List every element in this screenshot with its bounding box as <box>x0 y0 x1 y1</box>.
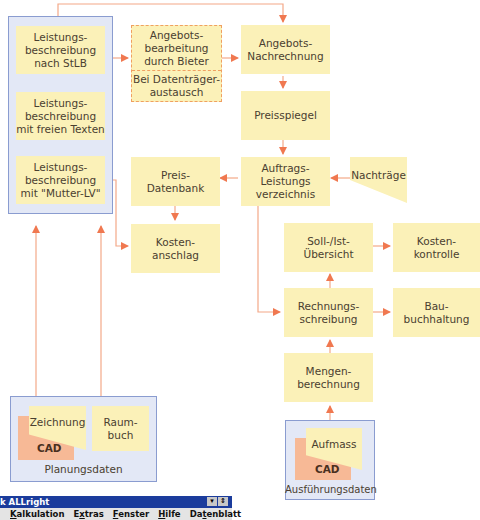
minimize-button[interactable]: ▾ <box>207 497 217 506</box>
kostenkontrolle-box[interactable]: Kosten- kontrolle <box>393 223 480 272</box>
app-window: k ALLright ▾ ⇕ Kalkulation Extras Fenste… <box>0 496 232 520</box>
window-titlebar: k ALLright ▾ ⇕ <box>0 496 232 508</box>
datentraeger-label: Bei Datenträger- austausch <box>132 71 221 101</box>
ausfuehrung-cad-label: CAD <box>315 463 340 475</box>
menu-datenblatt[interactable]: Datenblatt <box>190 508 242 520</box>
kostenanschlag-box[interactable]: Kosten- anschlag <box>131 224 220 273</box>
menu-kalkulation[interactable]: Kalkulation <box>10 508 64 520</box>
baubuchhaltung-box[interactable]: Bau- buchhaltung <box>393 288 480 337</box>
menu-hilfe[interactable]: Hilfe <box>158 508 180 520</box>
angebotsbearbeitung-box[interactable]: Angebots- bearbeitung durch Bieter Bei D… <box>131 25 222 102</box>
restore-button[interactable]: ⇕ <box>218 497 228 506</box>
mengenberechnung-box[interactable]: Mengen- berechnung <box>284 353 373 402</box>
menu-bar: Kalkulation Extras Fenster Hilfe Datenbl… <box>0 508 232 520</box>
auftrags-lv-box[interactable]: Auftrags- Leistungs verzeichnis <box>241 157 330 206</box>
planungsdaten-label: Planungsdaten <box>10 463 157 475</box>
ausfuehrungsdaten-label: Ausführungsdaten <box>285 484 375 495</box>
rechnungsschreibung-box[interactable]: Rechnungs- schreibung <box>284 288 373 337</box>
menu-extras[interactable]: Extras <box>73 508 103 520</box>
raumbuch-box[interactable]: Raum- buch <box>92 406 149 451</box>
lb-nach-stlb-box[interactable]: Leistungs- beschreibung nach StLB <box>16 26 105 74</box>
angebots-nachrechnung-box[interactable]: Angebots- Nachrechnung <box>241 25 330 74</box>
menu-fenster[interactable]: Fenster <box>113 508 149 520</box>
lb-freie-texte-box[interactable]: Leistungs- beschreibung mit freien Texte… <box>16 92 105 140</box>
angebotsbearbeitung-label: Angebots- bearbeitung durch Bieter <box>132 26 221 71</box>
planung-cad-label: CAD <box>37 442 62 454</box>
lb-mutter-lv-box[interactable]: Leistungs- beschreibung mit "Mutter-LV" <box>16 156 105 204</box>
preisspiegel-box[interactable]: Preisspiegel <box>241 91 330 140</box>
preis-datenbank-box[interactable]: Preis- Datenbank <box>131 157 220 206</box>
window-title: k ALLright <box>0 497 49 507</box>
soll-ist-box[interactable]: Soll-/Ist- Übersicht <box>284 223 373 272</box>
